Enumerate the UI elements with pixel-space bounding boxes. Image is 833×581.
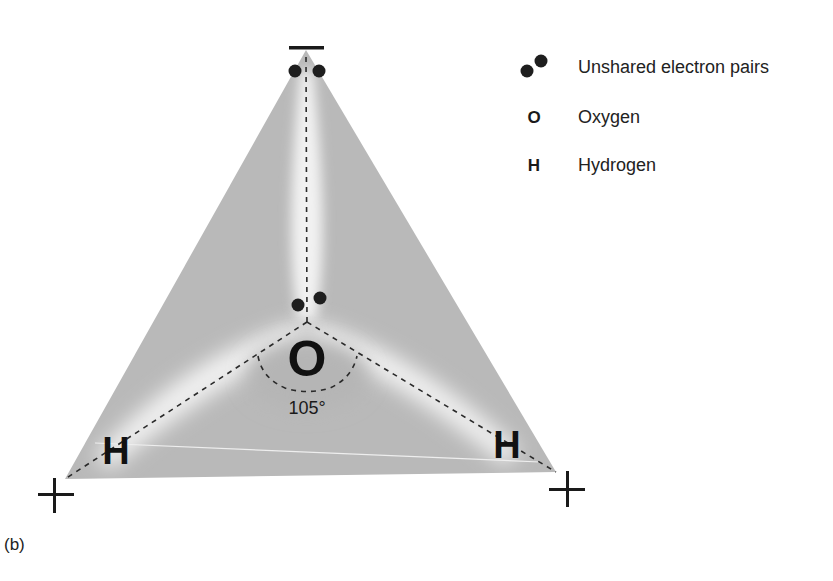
hydrogen-atom-label-right: H xyxy=(493,424,520,466)
positive-charge-icon-right xyxy=(549,471,585,507)
water-molecule-diagram: O 105° H H xyxy=(0,0,833,581)
legend-label-hydrogen: Hydrogen xyxy=(578,155,656,176)
legend-label-electron-pairs: Unshared electron pairs xyxy=(578,57,769,78)
legend-item-electron-pairs: Unshared electron pairs xyxy=(510,54,769,80)
hydrogen-symbol: H xyxy=(510,156,558,176)
legend-item-oxygen: O Oxygen xyxy=(510,107,640,128)
positive-charge-icon-left xyxy=(38,478,74,513)
panel-label: (b) xyxy=(4,535,25,555)
bond-angle-label: 105° xyxy=(288,398,325,418)
legend-label-oxygen: Oxygen xyxy=(578,107,640,128)
oxygen-symbol: O xyxy=(510,108,558,128)
oxygen-atom-label: O xyxy=(288,331,327,387)
electron-pair-icon xyxy=(510,54,558,80)
legend-item-hydrogen: H Hydrogen xyxy=(510,155,656,176)
hydrogen-atom-label-left: H xyxy=(102,430,129,472)
negative-charge-icon xyxy=(289,46,324,50)
